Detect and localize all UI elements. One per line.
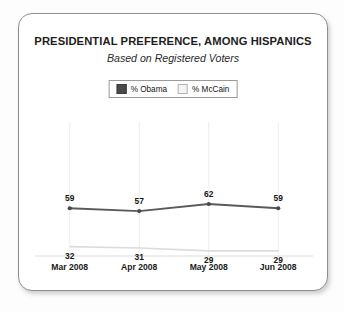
chart-legend: % Obama % McCain xyxy=(109,80,238,98)
series-line-obama xyxy=(70,204,279,211)
data-point-marker xyxy=(276,206,280,210)
legend-label-mccain: % McCain xyxy=(192,85,229,94)
chart-svg xyxy=(35,122,313,257)
chart-card: PRESIDENTIAL PREFERENCE, AMONG HISPANICS… xyxy=(18,13,328,291)
chart-subtitle: Based on Registered Voters xyxy=(19,52,327,64)
x-tick-label: Jun 2008 xyxy=(244,262,314,280)
x-tick-label: May 2008 xyxy=(174,262,244,280)
data-label-obama: 59 xyxy=(274,193,283,203)
data-label-mccain: 32 xyxy=(65,251,74,261)
plot-area: 5957625932312929 xyxy=(35,122,313,257)
series-line-mccain xyxy=(70,247,279,251)
chart-card-container: PRESIDENTIAL PREFERENCE, AMONG HISPANICS… xyxy=(0,0,344,312)
data-point-marker xyxy=(207,202,211,206)
x-axis-labels: Mar 2008 Apr 2008 May 2008 Jun 2008 xyxy=(35,262,313,280)
light-square-swatch-icon xyxy=(178,84,188,94)
data-label-obama: 59 xyxy=(65,193,74,203)
legend-label-obama: % Obama xyxy=(131,85,167,94)
data-point-marker xyxy=(137,209,141,213)
gridlines xyxy=(70,122,279,257)
legend-item-mccain: % McCain xyxy=(178,84,229,94)
data-point-marker xyxy=(68,206,72,210)
data-label-mccain: 31 xyxy=(135,252,144,262)
legend-item-obama: % Obama xyxy=(117,84,167,94)
data-label-obama: 62 xyxy=(204,189,213,199)
data-label-obama: 57 xyxy=(135,196,144,206)
dark-square-swatch-icon xyxy=(117,84,127,94)
x-tick-label: Mar 2008 xyxy=(35,262,105,280)
chart-title: PRESIDENTIAL PREFERENCE, AMONG HISPANICS xyxy=(19,35,327,47)
x-tick-label: Apr 2008 xyxy=(105,262,175,280)
